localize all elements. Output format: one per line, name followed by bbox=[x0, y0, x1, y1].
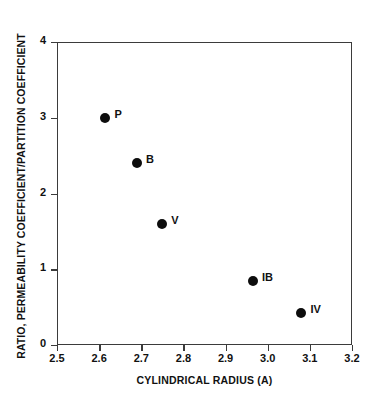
x-tick-mark bbox=[141, 345, 142, 351]
x-tick-label: 3.2 bbox=[332, 352, 372, 364]
y-tick-label: 2 bbox=[20, 186, 46, 198]
x-tick-mark bbox=[57, 345, 58, 351]
x-tick-mark bbox=[310, 345, 311, 351]
plot-area bbox=[57, 42, 352, 345]
x-axis-title: CYLINDRICAL RADIUS (A) bbox=[57, 374, 352, 386]
y-tick-mark bbox=[51, 118, 57, 119]
y-tick-mark bbox=[51, 194, 57, 195]
x-tick-label: 2.8 bbox=[163, 352, 203, 364]
x-tick-label: 3.0 bbox=[248, 352, 288, 364]
x-tick-label: 2.5 bbox=[37, 352, 77, 364]
y-tick-mark bbox=[51, 345, 57, 346]
y-tick-mark bbox=[51, 269, 57, 270]
y-tick-label: 0 bbox=[20, 337, 46, 349]
x-tick-label: 2.7 bbox=[121, 352, 161, 364]
data-point-label-v: V bbox=[171, 214, 178, 226]
x-tick-mark bbox=[183, 345, 184, 351]
scatter-plot-figure: RATIO, PERMEABILITY COEFFICIENT/PARTITIO… bbox=[0, 0, 375, 410]
y-tick-label: 4 bbox=[20, 34, 46, 46]
x-tick-mark bbox=[226, 345, 227, 351]
y-tick-mark bbox=[51, 42, 57, 43]
x-tick-label: 3.1 bbox=[290, 352, 330, 364]
data-point-label-p: P bbox=[114, 108, 121, 120]
x-tick-label: 2.6 bbox=[79, 352, 119, 364]
x-tick-label: 2.9 bbox=[206, 352, 246, 364]
y-tick-label: 1 bbox=[20, 261, 46, 273]
data-point-ib[interactable] bbox=[248, 276, 258, 286]
data-point-label-ib: IB bbox=[262, 271, 273, 283]
data-point-label-b: B bbox=[146, 153, 154, 165]
x-tick-mark bbox=[99, 345, 100, 351]
x-tick-mark bbox=[268, 345, 269, 351]
x-tick-mark bbox=[352, 345, 353, 351]
data-point-label-iv: IV bbox=[310, 303, 320, 315]
y-tick-label: 3 bbox=[20, 110, 46, 122]
